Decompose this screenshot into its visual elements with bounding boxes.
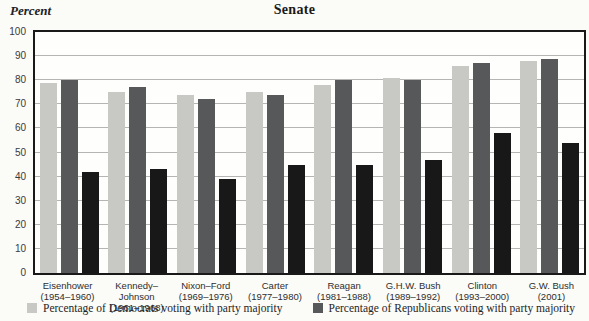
category-years: (1993–2000) — [448, 291, 517, 302]
category-years: (1977–1980) — [240, 291, 309, 302]
category-name: Carter — [262, 280, 288, 291]
y-tick-label: 10 — [15, 244, 26, 254]
y-axis: 1009080706050403020100 — [0, 30, 29, 275]
bar-group-eisenhower — [35, 32, 104, 273]
bar — [314, 85, 331, 273]
bar-group-nixon-ford — [172, 32, 241, 273]
bar — [198, 99, 215, 273]
bar — [82, 172, 99, 273]
bar — [61, 80, 78, 273]
bar-group-g-w-bush — [515, 32, 584, 273]
bar — [520, 61, 537, 273]
legend-label: Percentage of Democrats voting with part… — [43, 302, 283, 314]
category-name: Clinton — [468, 280, 498, 291]
category-years: (1969–1976) — [171, 291, 240, 302]
bar — [108, 92, 125, 273]
bar — [541, 59, 558, 273]
category-years: (2001) — [517, 291, 586, 302]
legend-swatch-icon — [313, 303, 323, 313]
bar — [246, 92, 263, 273]
legend: Percentage of Democrats voting with part… — [27, 302, 575, 314]
bar-group-reagan — [310, 32, 379, 273]
bar-group-kennedy-johnson — [104, 32, 173, 273]
legend-item: Percentage of Democrats voting with part… — [27, 302, 283, 314]
y-tick-label: 40 — [15, 172, 26, 182]
category-name: Eisenhower — [43, 280, 93, 291]
bar — [150, 169, 167, 273]
bar — [40, 83, 57, 273]
y-tick-label: 100 — [9, 27, 26, 37]
bar — [267, 95, 284, 273]
y-tick-label: 80 — [15, 75, 26, 85]
bar — [494, 133, 511, 273]
category-years: (1981–1988) — [310, 291, 379, 302]
y-tick-label: 90 — [15, 51, 26, 61]
senate-party-voting-chart: Percent Senate 1009080706050403020100 Ei… — [0, 0, 589, 321]
category-name: Nixon–Ford — [181, 280, 230, 291]
bar — [219, 179, 236, 273]
y-tick-label: 20 — [15, 220, 26, 230]
y-tick-label: 70 — [15, 99, 26, 109]
category-years: (1989–1992) — [379, 291, 448, 302]
y-tick-label: 60 — [15, 123, 26, 133]
legend-label: Percentage of Republicans voting with pa… — [329, 302, 576, 314]
bar — [356, 165, 373, 273]
bar — [562, 143, 579, 273]
bar — [335, 80, 352, 273]
y-tick-label: 50 — [15, 148, 26, 158]
bar-groups — [35, 32, 584, 273]
bar-group-clinton — [447, 32, 516, 273]
bar — [288, 165, 305, 273]
bar-group-carter — [241, 32, 310, 273]
category-years: (1954–1960) — [33, 291, 102, 302]
legend-item: Percentage of Republicans voting with pa… — [313, 302, 576, 314]
bar — [129, 87, 146, 273]
bar — [425, 160, 442, 273]
category-name: G.W. Bush — [529, 280, 574, 291]
plot-area — [33, 30, 586, 275]
bar — [473, 63, 490, 273]
bar-group-g-h-w-bush — [378, 32, 447, 273]
bar — [383, 78, 400, 273]
bar — [177, 95, 194, 273]
y-tick-label: 0 — [20, 268, 26, 278]
category-name: G.H.W. Bush — [386, 280, 441, 291]
bar — [404, 80, 421, 273]
category-name: Kennedy–Johnson — [115, 280, 158, 302]
y-tick-label: 30 — [15, 196, 26, 206]
bar — [452, 66, 469, 273]
category-name: Reagan — [327, 280, 360, 291]
legend-swatch-icon — [27, 303, 37, 313]
chart-title: Senate — [0, 2, 589, 18]
